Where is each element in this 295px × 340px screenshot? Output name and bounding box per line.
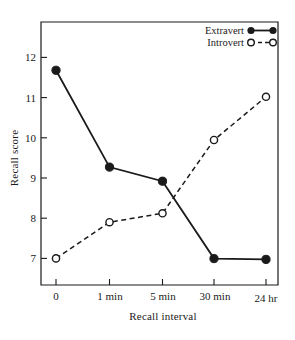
plot-frame xyxy=(41,22,278,285)
extravert-point-30min xyxy=(210,255,218,263)
extravert-point-1min xyxy=(105,163,113,171)
y-axis-ticks xyxy=(41,57,47,258)
y-tick-label-10: 10 xyxy=(25,132,37,144)
series-extravert xyxy=(52,66,270,263)
legend-marker-extravert-right xyxy=(269,27,276,34)
x-axis-title: Recall interval xyxy=(129,310,196,322)
introvert-point-24hr xyxy=(262,93,269,100)
legend-label-extravert: Extravert xyxy=(205,25,244,36)
introvert-point-0 xyxy=(52,255,59,262)
x-axis-tick-labels: 0 1 min 5 min 30 min 24 hr xyxy=(53,290,278,304)
chart-legend: Extravert Introvert xyxy=(205,25,277,48)
introvert-point-1min xyxy=(106,219,113,226)
x-axis-ticks xyxy=(56,279,266,285)
y-tick-label-8: 8 xyxy=(31,212,37,224)
x-tick-label-1min: 1 min xyxy=(97,290,123,302)
y-axis-tick-labels: 12 11 10 9 8 7 xyxy=(25,51,37,264)
legend-marker-extravert-left xyxy=(247,27,254,34)
legend-label-introvert: Introvert xyxy=(207,37,244,48)
x-tick-label-24hr: 24 hr xyxy=(255,292,278,304)
introvert-point-30min xyxy=(210,136,217,143)
y-tick-label-11: 11 xyxy=(25,92,36,104)
recall-score-line-chart: 12 11 10 9 8 7 0 1 min 5 min 30 min 24 h… xyxy=(0,0,295,340)
y-tick-label-9: 9 xyxy=(31,172,37,184)
y-tick-label-7: 7 xyxy=(31,252,37,264)
extravert-point-0 xyxy=(52,66,60,74)
legend-marker-introvert-left xyxy=(248,39,255,46)
extravert-point-5min xyxy=(158,177,166,185)
x-tick-label-30min: 30 min xyxy=(200,290,231,302)
legend-marker-introvert-right xyxy=(270,39,277,46)
extravert-point-24hr xyxy=(262,255,270,263)
extravert-line xyxy=(56,70,266,259)
x-tick-label-5min: 5 min xyxy=(150,290,176,302)
introvert-point-5min xyxy=(159,210,166,217)
x-tick-label-0: 0 xyxy=(53,290,59,302)
chart-figure: 12 11 10 9 8 7 0 1 min 5 min 30 min 24 h… xyxy=(0,0,295,340)
plot-border xyxy=(41,22,278,285)
y-axis-title: Recall score xyxy=(8,130,20,186)
y-tick-label-12: 12 xyxy=(25,51,36,63)
